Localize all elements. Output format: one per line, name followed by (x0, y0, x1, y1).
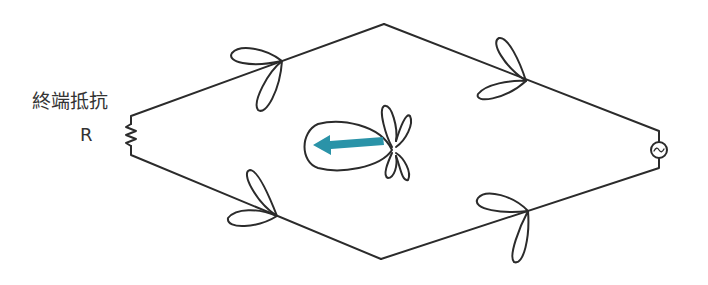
lobe-pattern-upper-left (231, 48, 282, 111)
left-arrow-icon (313, 135, 384, 155)
resistor-icon (126, 124, 136, 146)
wire-lower-left (131, 146, 381, 259)
wire-lower-right (381, 158, 659, 259)
wire-upper-right (384, 24, 659, 142)
rhombic-antenna-diagram (0, 0, 708, 285)
ac-source-icon (651, 142, 667, 158)
lobe-pattern-upper-right (478, 38, 526, 99)
lobe-pattern-lower-right (477, 194, 529, 263)
